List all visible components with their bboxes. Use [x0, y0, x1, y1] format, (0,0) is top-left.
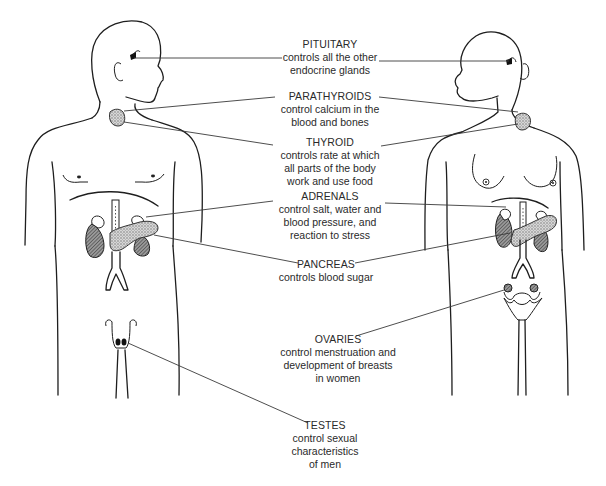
male-testis-right — [116, 339, 121, 346]
label-ovaries-title: OVARIES — [253, 333, 423, 346]
label-parathyroids-title: PARATHYROIDS — [245, 90, 415, 103]
male-pituitary-gland — [130, 52, 136, 60]
label-pituitary-desc: controls all the other endocrine glands — [245, 51, 415, 77]
label-thyroid: THYROID controls rate at which all parts… — [245, 136, 415, 188]
label-testes-title: TESTES — [240, 419, 410, 432]
female-uterus — [504, 298, 542, 320]
label-thyroid-title: THYROID — [245, 136, 415, 149]
label-testes: TESTES control sexual characteristics of… — [240, 419, 410, 471]
female-pituitary-gland — [506, 58, 512, 65]
label-thyroid-desc: controls rate at which all parts of the … — [245, 149, 415, 188]
female-ovary-right — [504, 284, 512, 292]
female-head-outline — [455, 32, 522, 110]
male-figure — [25, 21, 202, 398]
male-head-outline — [92, 21, 164, 103]
female-figure — [425, 32, 584, 395]
label-adrenals-title: ADRENALS — [245, 190, 415, 203]
female-thyroid-gland — [515, 113, 530, 130]
label-pancreas-desc: controls blood sugar — [241, 271, 411, 284]
label-parathyroids: PARATHYROIDS control calcium in the bloo… — [245, 90, 415, 129]
label-ovaries-desc: control menstruation and development of … — [253, 346, 423, 385]
label-adrenals: ADRENALS control salt, water and blood p… — [245, 190, 415, 242]
female-torso-outline — [425, 132, 462, 250]
label-ovaries: OVARIES control menstruation and develop… — [253, 333, 423, 385]
label-adrenals-desc: control salt, water and blood pressure, … — [245, 203, 415, 242]
male-testis-left — [122, 339, 127, 346]
leader-ovaries — [356, 290, 504, 336]
label-pancreas: PANCREAS controls blood sugar — [241, 258, 411, 284]
label-pituitary-title: PITUITARY — [245, 38, 415, 51]
label-pancreas-title: PANCREAS — [241, 258, 411, 271]
male-ear — [114, 63, 123, 81]
label-testes-desc: control sexual characteristics of men — [240, 432, 410, 471]
label-pituitary: PITUITARY controls all the other endocri… — [245, 38, 415, 77]
label-parathyroids-desc: control calcium in the blood and bones — [245, 103, 415, 129]
male-kidney-right — [86, 224, 104, 258]
female-ovary-left — [530, 284, 538, 292]
male-thyroid-gland — [109, 109, 124, 126]
